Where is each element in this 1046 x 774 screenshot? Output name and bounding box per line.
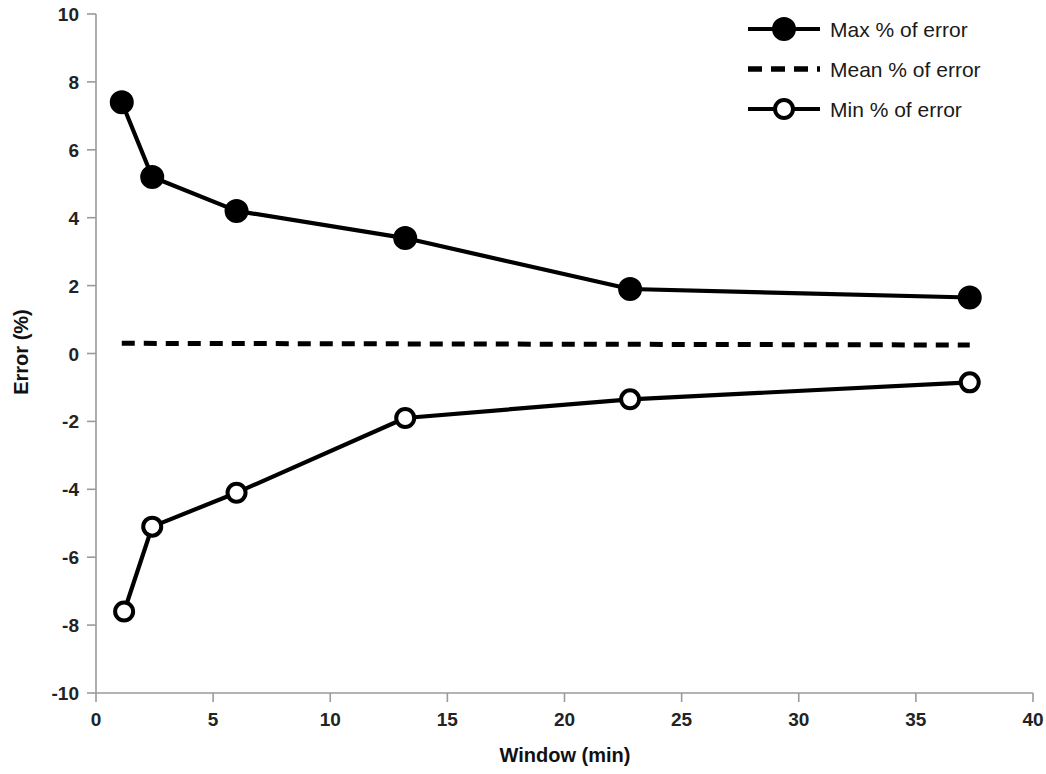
y-tick-label: -2 — [62, 411, 79, 432]
legend-item: Max % of error — [748, 18, 968, 41]
data-point-marker — [621, 390, 639, 408]
series-mean-of-error — [122, 343, 970, 345]
y-tick-label: -4 — [62, 479, 79, 500]
y-tick-label: 4 — [68, 208, 79, 229]
data-point-marker — [961, 373, 979, 391]
x-tick-label: 40 — [1022, 709, 1043, 730]
series-max-of-error — [111, 91, 981, 308]
data-point-marker — [396, 409, 414, 427]
y-tick-label: -6 — [62, 547, 79, 568]
x-axis-tick-marks — [96, 693, 1033, 702]
data-point-marker — [226, 200, 248, 222]
x-tick-label: 10 — [320, 709, 341, 730]
x-tick-label: 30 — [788, 709, 809, 730]
series-line — [122, 343, 970, 345]
x-axis-tick-labels: 0510152025303540 — [91, 709, 1044, 730]
legend-item: Min % of error — [748, 98, 962, 121]
data-point-marker — [141, 166, 163, 188]
y-tick-label: 0 — [68, 344, 79, 365]
data-point-marker — [115, 603, 133, 621]
y-axis-title: Error (%) — [10, 309, 32, 395]
x-tick-label: 15 — [437, 709, 459, 730]
data-point-marker — [143, 518, 161, 536]
legend-label: Max % of error — [830, 18, 968, 41]
x-tick-label: 35 — [905, 709, 927, 730]
data-point-marker — [111, 91, 133, 113]
y-tick-label: 8 — [68, 72, 79, 93]
error-vs-window-line-chart: -10-8-6-4-20246810 0510152025303540 Erro… — [0, 0, 1046, 774]
y-axis-tick-labels: -10-8-6-4-20246810 — [52, 4, 80, 704]
y-tick-label: 10 — [58, 4, 79, 25]
legend-open-circle-icon — [775, 100, 793, 118]
x-tick-label: 25 — [671, 709, 693, 730]
series-line — [122, 102, 970, 297]
chart-container: -10-8-6-4-20246810 0510152025303540 Erro… — [0, 0, 1046, 774]
legend-label: Min % of error — [830, 98, 962, 121]
y-tick-label: -8 — [62, 615, 79, 636]
legend-label: Mean % of error — [830, 58, 981, 81]
x-tick-label: 20 — [554, 709, 575, 730]
y-tick-label: 6 — [68, 140, 79, 161]
x-axis-title: Window (min) — [500, 744, 631, 766]
x-tick-label: 5 — [208, 709, 219, 730]
data-point-marker — [619, 278, 641, 300]
series-line — [124, 382, 970, 611]
legend-item: Mean % of error — [748, 58, 981, 81]
x-tick-label: 0 — [91, 709, 102, 730]
series-min-of-error — [115, 373, 979, 620]
y-axis-tick-marks — [87, 14, 96, 693]
y-tick-label: 2 — [68, 276, 79, 297]
chart-legend: Max % of errorMean % of errorMin % of er… — [748, 18, 981, 121]
y-tick-label: -10 — [52, 683, 79, 704]
legend-filled-circle-icon — [773, 18, 795, 40]
data-point-marker — [228, 484, 246, 502]
data-series-layer — [111, 91, 981, 620]
data-point-marker — [394, 227, 416, 249]
data-point-marker — [959, 286, 981, 308]
